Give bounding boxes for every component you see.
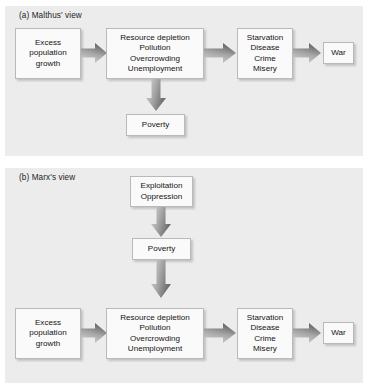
arrow-excess-to-resource-a	[81, 42, 107, 64]
box-line: War	[331, 48, 346, 58]
box-line: growth	[36, 59, 60, 69]
box-line: Pollution	[139, 43, 170, 53]
box-line: Excess	[35, 38, 61, 48]
arrow-starvation-to-war-b	[293, 322, 321, 344]
arrow-exploitation-to-poverty-b	[150, 207, 172, 237]
box-line: growth	[36, 339, 60, 349]
panel-a-label: (a) Malthus' view	[19, 11, 82, 20]
box-exploitation-oppression-b: Exploitation Oppression	[130, 176, 193, 207]
box-line: Overcrowding	[130, 334, 180, 344]
panel-malthus-view: (a) Malthus' view Excess population grow…	[5, 6, 363, 156]
box-line: Starvation	[247, 313, 283, 323]
box-line: Pollution	[139, 323, 170, 333]
box-line: Misery	[253, 344, 277, 354]
arrow-poverty-to-resource-b	[150, 260, 172, 298]
box-war-a: War	[323, 42, 354, 64]
box-line: Exploitation	[141, 181, 183, 191]
panel-b-label: (b) Marx's view	[19, 173, 75, 182]
box-war-b: War	[323, 322, 354, 344]
box-line: Resource depletion	[120, 33, 190, 43]
box-line: Crime	[254, 54, 276, 64]
flowchart-figure: (a) Malthus' view Excess population grow…	[0, 0, 368, 388]
box-line: Disease	[250, 323, 279, 333]
box-poverty-a: Poverty	[126, 114, 185, 136]
panel-marx-view: (b) Marx's view Exploitation Oppression	[5, 168, 363, 383]
box-line: Starvation	[247, 33, 283, 43]
arrow-resource-to-poverty-a	[145, 79, 167, 111]
box-line: Resource depletion	[120, 313, 190, 323]
arrow-resource-to-starvation-a	[204, 42, 236, 64]
box-poverty-b: Poverty	[132, 238, 191, 260]
box-line: Unemployment	[128, 64, 182, 74]
box-starvation-b: Starvation Disease Crime Misery	[237, 308, 293, 359]
box-line: Overcrowding	[130, 54, 180, 64]
box-line: Unemployment	[128, 344, 182, 354]
box-excess-population-growth-a: Excess population growth	[15, 28, 81, 79]
arrow-excess-to-resource-b	[81, 322, 107, 344]
box-line: War	[331, 328, 346, 338]
box-line: population	[29, 48, 66, 58]
arrow-starvation-to-war-a	[293, 42, 321, 64]
box-line: Disease	[250, 43, 279, 53]
box-excess-population-growth-b: Excess population growth	[15, 308, 81, 359]
box-line: Poverty	[142, 120, 169, 130]
box-line: Oppression	[141, 192, 182, 202]
box-starvation-a: Starvation Disease Crime Misery	[237, 28, 293, 79]
box-line: population	[29, 328, 66, 338]
box-line: Excess	[35, 318, 61, 328]
arrow-resource-to-starvation-b	[204, 322, 236, 344]
box-line: Misery	[253, 64, 277, 74]
box-resource-depletion-b: Resource depletion Pollution Overcrowdin…	[106, 308, 204, 359]
box-line: Crime	[254, 334, 276, 344]
box-resource-depletion-a: Resource depletion Pollution Overcrowdin…	[106, 28, 204, 79]
box-line: Poverty	[148, 244, 175, 254]
